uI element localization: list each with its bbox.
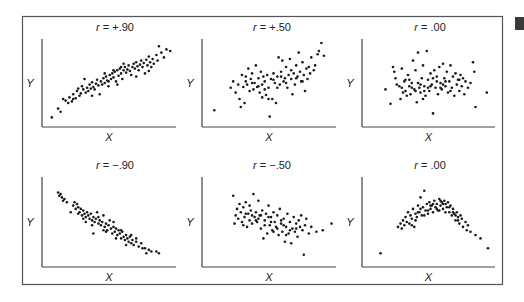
data-point [148, 70, 151, 73]
data-point [464, 80, 467, 83]
data-point [270, 221, 273, 224]
data-point [301, 80, 304, 83]
data-point [120, 229, 123, 232]
data-point [414, 69, 417, 72]
panel-title: r = +.50 [253, 21, 291, 33]
data-point [422, 64, 425, 67]
data-point [439, 199, 442, 202]
data-point [149, 61, 152, 64]
data-point [402, 91, 405, 94]
data-point [266, 74, 269, 77]
data-point [251, 214, 254, 217]
data-point [452, 75, 455, 78]
data-point [421, 214, 424, 217]
data-point [110, 227, 113, 230]
data-point [427, 209, 430, 212]
data-point [423, 214, 426, 217]
data-point [248, 219, 251, 222]
data-point [108, 74, 111, 77]
data-point [274, 221, 277, 224]
data-point [457, 219, 460, 222]
data-point [316, 53, 319, 56]
data-point [439, 82, 442, 85]
data-point [92, 232, 95, 235]
data-point [436, 75, 439, 78]
data-point [232, 195, 235, 198]
data-point [308, 66, 311, 69]
panel-title: r = .00 [414, 21, 446, 33]
data-point [309, 72, 312, 75]
data-point [429, 204, 432, 207]
data-point [96, 79, 99, 82]
data-point [474, 234, 477, 237]
data-point [272, 211, 275, 214]
data-point [447, 201, 450, 204]
data-point [277, 56, 280, 59]
data-point [411, 217, 414, 220]
data-point [423, 190, 426, 193]
data-point [436, 203, 439, 206]
data-point [454, 72, 457, 75]
data-point [61, 196, 64, 199]
data-point [93, 221, 96, 224]
data-point [115, 237, 118, 240]
data-point [267, 98, 270, 101]
data-point [442, 83, 445, 86]
data-point [408, 79, 411, 82]
data-point [246, 226, 249, 229]
panel-title: r = +.90 [96, 21, 134, 33]
data-point [98, 93, 101, 96]
data-point [111, 232, 114, 235]
scatter-panel-6: r = .00YX [346, 159, 495, 283]
data-point [285, 82, 288, 85]
data-point [409, 93, 412, 96]
data-point [97, 84, 100, 87]
data-point [282, 217, 285, 220]
data-point [297, 51, 300, 54]
data-point [434, 87, 437, 90]
data-point [411, 224, 414, 227]
data-point [140, 242, 143, 245]
data-point [57, 191, 60, 194]
data-point [250, 209, 253, 212]
data-point [250, 78, 253, 81]
data-point [145, 59, 148, 62]
data-point [444, 211, 447, 214]
data-point [462, 226, 465, 229]
data-point [82, 217, 85, 220]
data-point [457, 216, 460, 219]
data-point [392, 66, 395, 69]
data-point [418, 87, 421, 90]
data-point [236, 208, 239, 211]
data-point [117, 229, 120, 232]
data-point [102, 229, 105, 232]
data-point [442, 63, 445, 66]
data-point [92, 86, 95, 89]
data-point [313, 69, 316, 72]
data-point [267, 87, 270, 90]
data-point [132, 63, 135, 66]
data-point [421, 77, 424, 80]
data-point [155, 54, 158, 57]
data-point [424, 95, 427, 98]
data-point [145, 252, 148, 255]
data-point [266, 232, 269, 235]
data-point [472, 61, 475, 64]
data-point [448, 80, 451, 83]
data-point [81, 85, 84, 88]
data-point [140, 59, 143, 62]
data-point [63, 198, 66, 201]
data-point [467, 224, 470, 227]
data-point [444, 80, 447, 83]
data-point [263, 80, 266, 83]
data-point [112, 69, 115, 72]
data-point [414, 90, 417, 93]
data-point [294, 83, 297, 86]
data-point [98, 219, 101, 222]
data-point [100, 224, 103, 227]
data-point [169, 50, 172, 53]
data-point [135, 240, 138, 243]
data-point [451, 214, 454, 217]
data-point [148, 249, 151, 252]
data-point [253, 216, 256, 219]
